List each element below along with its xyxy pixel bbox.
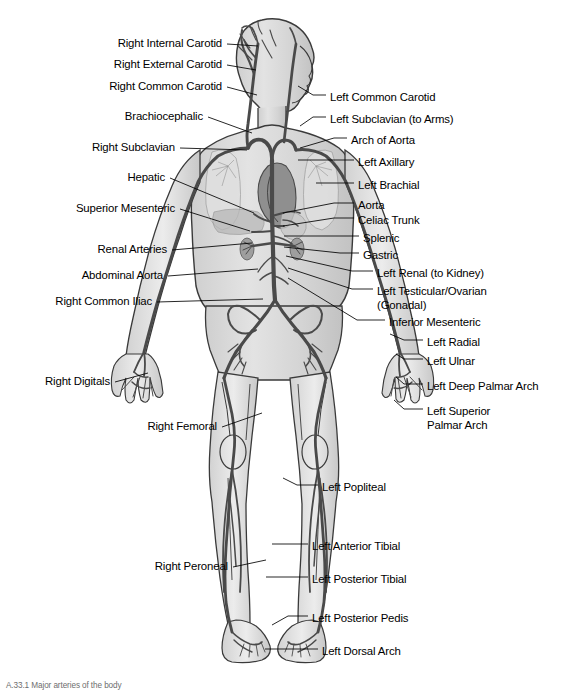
- label-inferior-mesenteric-line1: Inferior Mesenteric: [389, 316, 480, 328]
- label-aorta-line1: Aorta: [358, 199, 384, 211]
- label-right-internal-carotid: Right Internal Carotid: [118, 37, 222, 51]
- label-left-popliteal: Left Popliteal: [322, 481, 386, 495]
- label-left-testicular-ovarian-line2: (Gonadal): [377, 299, 426, 311]
- label-left-deep-palmar-arch-line1: Left Deep Palmar Arch: [427, 380, 538, 392]
- label-left-posterior-tibial: Left Posterior Tibial: [312, 573, 406, 587]
- label-superior-mesenteric: Superior Mesenteric: [76, 202, 175, 216]
- leader-anchor-left-subclavian: [300, 117, 313, 126]
- label-left-anterior-tibial: Left Anterior Tibial: [312, 540, 400, 554]
- arterial-diagram-page: Right Internal CarotidRight External Car…: [0, 0, 567, 699]
- label-left-superior-palmar-arch-line1: Left Superior: [427, 405, 490, 417]
- label-brachiocephalic: Brachiocephalic: [125, 110, 203, 124]
- label-abdominal-aorta: Abdominal Aorta: [82, 269, 163, 283]
- label-arch-of-aorta-line1: Arch of Aorta: [351, 134, 415, 146]
- label-left-common-carotid-line1: Left Common Carotid: [330, 91, 435, 103]
- label-left-axillary: Left Axillary: [358, 156, 414, 170]
- label-left-superior-palmar-arch: Left SuperiorPalmar Arch: [427, 405, 490, 432]
- label-left-common-carotid: Left Common Carotid: [330, 91, 435, 105]
- label-splenic: Splenic: [363, 232, 399, 246]
- label-left-anterior-tibial-line1: Left Anterior Tibial: [312, 540, 400, 552]
- label-inferior-mesenteric: Inferior Mesenteric: [389, 316, 480, 330]
- leader-brachiocephalic: [208, 117, 252, 133]
- leader-anchor-left-posterior-pedis: [272, 616, 288, 625]
- human-arterial-figure: [0, 0, 567, 699]
- label-gastric: Gastric: [363, 249, 398, 263]
- figure-caption: A.33.1 Major arteries of the body: [6, 681, 121, 691]
- label-left-axillary-line1: Left Axillary: [358, 156, 414, 168]
- leader-anchor-left-popliteal: [283, 478, 297, 485]
- label-right-common-iliac: Right Common Iliac: [55, 295, 152, 309]
- label-left-brachial-line1: Left Brachial: [358, 179, 419, 191]
- label-left-subclavian: Left Subclavian (to Arms): [330, 113, 454, 127]
- label-left-radial: Left Radial: [427, 336, 480, 350]
- label-left-ulnar: Left Ulnar: [427, 355, 475, 369]
- label-renal-arteries: Renal Arteries: [98, 243, 167, 257]
- label-right-common-carotid: Right Common Carotid: [109, 80, 222, 94]
- label-gastric-line1: Gastric: [363, 249, 398, 261]
- label-right-peroneal: Right Peroneal: [155, 560, 228, 574]
- label-celiac-trunk-line1: Celiac Trunk: [358, 214, 420, 226]
- label-right-femoral: Right Femoral: [147, 420, 217, 434]
- label-left-dorsal-arch-line1: Left Dorsal Arch: [322, 645, 401, 657]
- label-celiac-trunk: Celiac Trunk: [358, 214, 420, 228]
- label-left-superior-palmar-arch-line2: Palmar Arch: [427, 419, 487, 431]
- label-right-external-carotid: Right External Carotid: [114, 58, 222, 72]
- label-left-radial-line1: Left Radial: [427, 336, 480, 348]
- label-left-posterior-tibial-line1: Left Posterior Tibial: [312, 573, 406, 585]
- label-left-ulnar-line1: Left Ulnar: [427, 355, 475, 367]
- label-left-posterior-pedis: Left Posterior Pedis: [312, 612, 408, 626]
- label-left-testicular-ovarian: Left Testicular/Ovarian(Gonadal): [377, 285, 487, 312]
- label-right-digitals: Right Digitals: [45, 375, 110, 389]
- label-left-subclavian-line1: Left Subclavian (to Arms): [330, 113, 454, 125]
- label-left-brachial: Left Brachial: [358, 179, 419, 193]
- label-right-subclavian: Right Subclavian: [92, 141, 175, 155]
- label-left-testicular-ovarian-line1: Left Testicular/Ovarian: [377, 285, 487, 297]
- label-left-deep-palmar-arch: Left Deep Palmar Arch: [427, 380, 538, 394]
- label-hepatic: Hepatic: [127, 171, 165, 185]
- label-left-renal-line1: Left Renal (to Kidney): [377, 267, 484, 279]
- label-arch-of-aorta: Arch of Aorta: [351, 134, 415, 148]
- label-left-popliteal-line1: Left Popliteal: [322, 481, 386, 493]
- label-splenic-line1: Splenic: [363, 232, 399, 244]
- label-left-dorsal-arch: Left Dorsal Arch: [322, 645, 401, 659]
- label-left-renal: Left Renal (to Kidney): [377, 267, 484, 281]
- label-left-posterior-pedis-line1: Left Posterior Pedis: [312, 612, 408, 624]
- label-aorta: Aorta: [358, 199, 384, 213]
